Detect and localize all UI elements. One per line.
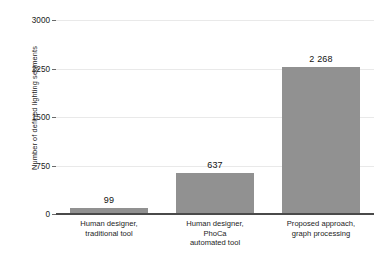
y-axis-title: Number of defined lighting segments xyxy=(28,8,42,208)
y-tick-mark xyxy=(52,20,56,21)
y-tick-label: 750 xyxy=(36,161,50,170)
bar-chart: Number of defined lighting segments 0750… xyxy=(0,0,383,270)
y-tick-label: 3000 xyxy=(32,16,50,25)
bar-value-label: 637 xyxy=(207,160,223,170)
y-tick-label: 1500 xyxy=(32,113,50,122)
bar-group: 637 xyxy=(176,160,254,214)
bar[interactable] xyxy=(282,67,360,214)
y-tick-label: 2250 xyxy=(32,64,50,73)
x-category-label: Human designer, PhoCa automated tool xyxy=(162,219,268,248)
x-axis-line xyxy=(56,213,374,214)
y-tick-mark xyxy=(52,69,56,70)
bar-group: 99 xyxy=(70,195,148,214)
bar-value-label: 2 268 xyxy=(309,54,333,64)
bar-group: 2 268 xyxy=(282,54,360,214)
y-tick-mark xyxy=(52,117,56,118)
x-category-label: Human designer, traditional tool xyxy=(56,219,162,238)
bar[interactable] xyxy=(176,173,254,214)
y-tick-mark xyxy=(52,166,56,167)
y-tick-label: 0 xyxy=(45,210,50,219)
gridline xyxy=(56,20,374,21)
x-category-label: Proposed approach, graph processing xyxy=(268,219,374,238)
plot-area: 0750150022503000 996372 268 xyxy=(56,20,374,214)
bar-value-label: 99 xyxy=(104,195,114,205)
